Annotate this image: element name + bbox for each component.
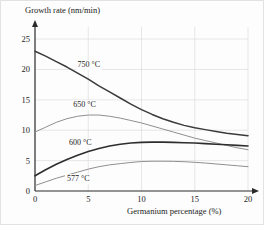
svg-text:15: 15 <box>191 194 200 204</box>
series-label-750c: 750 °C <box>78 60 101 69</box>
axes <box>32 20 259 194</box>
plot-area: 051015202505101520 750 °C650 °C600 °C577… <box>1 1 264 225</box>
svg-text:20: 20 <box>22 64 31 74</box>
svg-text:5: 5 <box>26 156 30 166</box>
svg-text:20: 20 <box>244 194 253 204</box>
chart-figure: Growth rate (nm/min) Germanium percentag… <box>0 0 264 225</box>
series-label-600c: 600 °C <box>69 138 92 147</box>
svg-text:15: 15 <box>22 95 31 105</box>
curve-labels: 750 °C650 °C600 °C577 °C <box>65 60 102 184</box>
series-label-650c: 650 °C <box>73 100 96 109</box>
svg-text:5: 5 <box>86 194 90 204</box>
series-label-577c: 577 °C <box>67 174 90 183</box>
svg-text:0: 0 <box>33 194 37 204</box>
svg-text:0: 0 <box>26 186 30 196</box>
svg-text:25: 25 <box>22 34 31 44</box>
svg-text:10: 10 <box>137 194 146 204</box>
svg-text:10: 10 <box>22 125 31 135</box>
